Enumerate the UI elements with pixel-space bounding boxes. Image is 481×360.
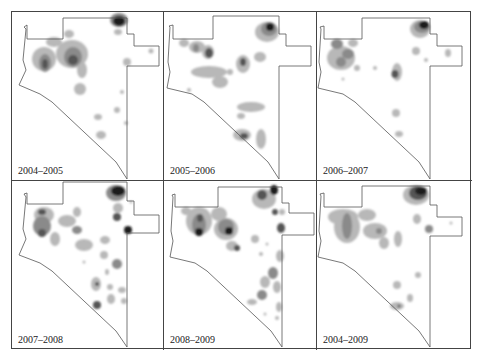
panel-label: 2006–2007 [323, 165, 368, 176]
density-map [12, 12, 164, 181]
density-map [12, 181, 164, 350]
map-panel-2004-2009: 2004–2009 [317, 181, 469, 350]
density-map [164, 12, 316, 181]
panel-label: 2004–2009 [323, 334, 368, 345]
map-panel-2005-2006: 2005–2006 [164, 12, 316, 181]
kernel-density-map-grid: 2004–2005 [11, 11, 471, 349]
panel-label: 2007–2008 [18, 334, 63, 345]
panel-label: 2004–2005 [18, 165, 63, 176]
density-map [317, 181, 469, 350]
density-map [164, 181, 316, 350]
map-panel-2006-2007: 2006–2007 [317, 12, 469, 181]
map-panel-2004-2005: 2004–2005 [12, 12, 164, 181]
map-panel-2008-2009: 2008–2009 [164, 181, 316, 350]
panel-label: 2005–2006 [170, 165, 215, 176]
map-panel-2007-2008: 2007–2008 [12, 181, 164, 350]
panel-label: 2008–2009 [170, 334, 215, 345]
density-map [317, 12, 469, 181]
